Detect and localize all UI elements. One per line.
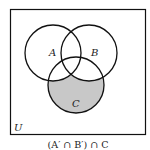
label-c: C — [72, 98, 80, 109]
caption: (A′ ∩ B′) ∩ C — [48, 139, 109, 150]
label-b: B — [90, 47, 98, 58]
venn-diagram: A B C U (A′ ∩ B′) ∩ C — [0, 0, 150, 150]
label-a: A — [48, 47, 56, 58]
label-universe: U — [14, 122, 23, 133]
shaded-region — [0, 0, 150, 150]
